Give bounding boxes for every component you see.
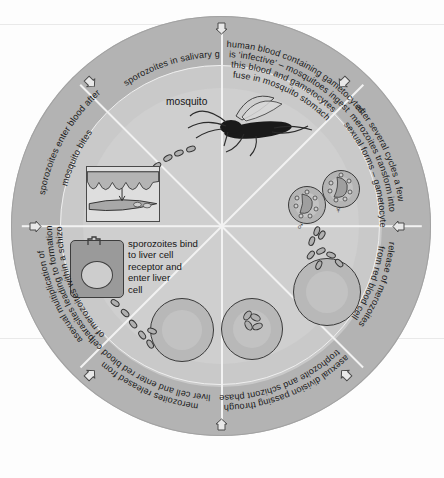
- male-symbol: ♂: [296, 220, 304, 232]
- liver-binding-label: sporozoites bind to liver cell receptor …: [128, 238, 200, 295]
- cycle-arrow-icon: [215, 22, 228, 35]
- malaria-life-cycle-diagram: ♂ ♀ mosquito sporozoites bind to liver c…: [0, 0, 444, 478]
- skin-and-blood-vessel-illustration: [86, 166, 160, 222]
- red-blood-cell-with-merozoite: [150, 298, 214, 362]
- liver-schizont: [81, 261, 113, 289]
- rbc-pale-centre: [306, 271, 348, 313]
- bursting-red-blood-cell: [293, 258, 361, 326]
- rbc-pale-centre: [162, 310, 202, 350]
- liver-cell-illustration: [70, 240, 124, 298]
- male-gametocyte-detail: [288, 186, 324, 222]
- female-gametocyte-detail: [322, 170, 358, 206]
- liver-cell-receptor-notch: [86, 236, 102, 246]
- cycle-arrow-icon: [392, 220, 405, 233]
- cycle-arrow-icon: [29, 220, 42, 233]
- female-symbol: ♀: [334, 203, 342, 215]
- cycle-arrow-icon: [215, 418, 228, 431]
- mosquito-label: mosquito: [166, 96, 207, 107]
